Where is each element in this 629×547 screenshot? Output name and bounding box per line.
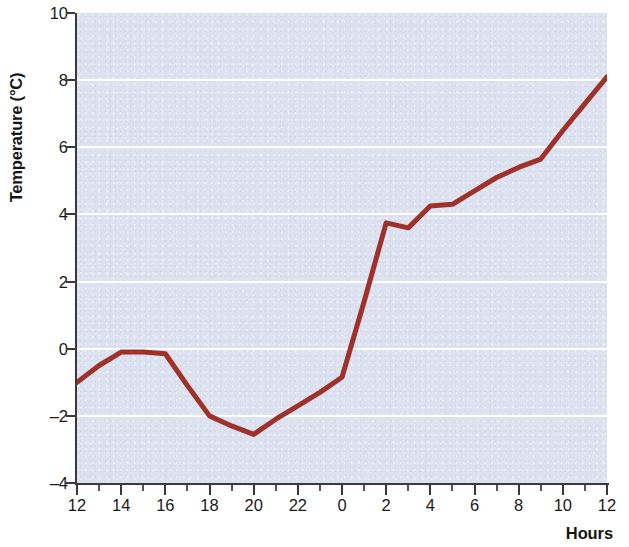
y-axis-tick-label: 0 xyxy=(28,341,68,358)
x-axis-tick-major xyxy=(76,485,78,495)
x-axis-tick-minor xyxy=(275,485,277,491)
x-axis-tick-label: 6 xyxy=(455,497,495,514)
y-axis-tick-label: –4 xyxy=(28,475,68,492)
x-axis-tick-label: 0 xyxy=(322,497,362,514)
y-axis-tick-labels: 1086420–2–4 xyxy=(28,0,68,547)
y-axis-tick xyxy=(66,12,75,14)
x-axis-tick-label: 12 xyxy=(57,497,97,514)
x-axis-tick-major xyxy=(209,485,211,495)
x-axis-title: Hours xyxy=(566,524,613,543)
y-axis-tick xyxy=(66,146,75,148)
x-axis-tick-major xyxy=(297,485,299,495)
y-axis-tick xyxy=(66,79,75,81)
y-axis-tick xyxy=(66,281,75,283)
x-axis-tick-minor xyxy=(319,485,321,491)
x-axis-tick-minor xyxy=(98,485,100,491)
y-axis-title-label: Temperature (°C) xyxy=(8,73,27,203)
y-axis-tick xyxy=(66,348,75,350)
x-axis-tick-minor xyxy=(584,485,586,491)
x-axis-tick-label: 4 xyxy=(410,497,450,514)
x-axis-tick-label: 16 xyxy=(145,497,185,514)
x-axis-tick-minor xyxy=(186,485,188,491)
plot-area xyxy=(77,13,607,483)
x-axis-tick-label: 2 xyxy=(366,497,406,514)
y-axis-tick-label: –2 xyxy=(28,408,68,425)
x-axis-title-label: Hours xyxy=(566,524,613,542)
y-axis-tick xyxy=(66,415,75,417)
x-axis-tick-major xyxy=(164,485,166,495)
y-axis-line xyxy=(75,13,77,485)
x-axis-tick-major xyxy=(120,485,122,495)
x-axis-tick-minor xyxy=(451,485,453,491)
x-axis-tick-minor xyxy=(231,485,233,491)
x-axis-tick-label: 20 xyxy=(234,497,274,514)
temperature-line-chart: Temperature (°C) 1086420–2–4 12141618202… xyxy=(0,0,629,547)
x-axis-tick-major xyxy=(253,485,255,495)
x-axis-tick-minor xyxy=(142,485,144,491)
x-axis-tick-major xyxy=(606,485,608,495)
x-axis-tick-major xyxy=(474,485,476,495)
x-axis-tick-label: 12 xyxy=(587,497,627,514)
x-axis-tick-minor xyxy=(407,485,409,491)
x-axis-tick-major xyxy=(385,485,387,495)
x-axis-tick-minor xyxy=(540,485,542,491)
x-axis-tick-label: 18 xyxy=(190,497,230,514)
x-axis-tick-major xyxy=(341,485,343,495)
x-axis-tick-minor xyxy=(363,485,365,491)
x-axis-tick-label: 10 xyxy=(543,497,583,514)
x-axis-tick-major xyxy=(562,485,564,495)
series-line-temperature xyxy=(77,13,607,483)
y-axis-tick-label: 6 xyxy=(28,139,68,156)
y-axis-tick-label: 10 xyxy=(28,5,68,22)
y-axis-tick-label: 4 xyxy=(28,206,68,223)
y-axis-tick-label: 2 xyxy=(28,274,68,291)
y-axis-tick xyxy=(66,213,75,215)
x-axis-tick-major xyxy=(518,485,520,495)
y-axis-tick xyxy=(66,482,75,484)
x-axis-tick-label: 8 xyxy=(499,497,539,514)
series-polyline xyxy=(77,77,607,435)
x-axis-tick-major xyxy=(429,485,431,495)
x-axis-tick-label: 22 xyxy=(278,497,318,514)
y-axis-tick-label: 8 xyxy=(28,72,68,89)
x-axis-tick-label: 14 xyxy=(101,497,141,514)
x-axis-tick-minor xyxy=(496,485,498,491)
